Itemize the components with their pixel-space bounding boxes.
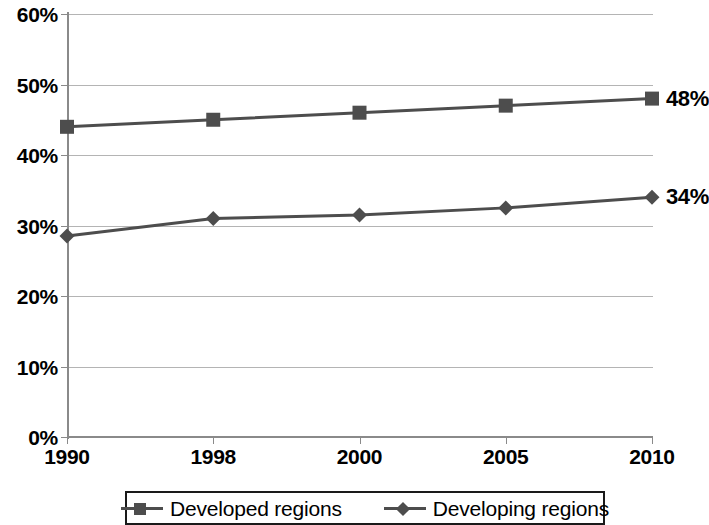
y-axis-line bbox=[67, 12, 69, 439]
square-data-point bbox=[206, 113, 220, 127]
x-tick-mark bbox=[67, 437, 68, 444]
legend-label-developing: Developing regions bbox=[433, 498, 609, 519]
series-line bbox=[67, 99, 652, 127]
y-axis-tick-label: 60% bbox=[17, 4, 58, 25]
x-axis-tick-label: 2000 bbox=[337, 446, 383, 467]
diamond-data-point bbox=[206, 211, 221, 226]
x-tick-mark bbox=[506, 437, 507, 444]
legend-label-developed: Developed regions bbox=[170, 498, 342, 519]
gridline bbox=[67, 85, 653, 86]
y-axis-tick-label: 20% bbox=[17, 286, 58, 307]
y-axis-tick-label: 10% bbox=[17, 357, 58, 378]
square-data-point bbox=[645, 92, 659, 106]
legend: Developed regions Developing regions bbox=[125, 491, 605, 525]
data-point-label: 48% bbox=[666, 88, 709, 110]
x-tick-mark bbox=[360, 437, 361, 444]
square-data-point bbox=[353, 106, 367, 120]
x-axis-tick-label: 2010 bbox=[629, 446, 675, 467]
legend-item-developing[interactable]: Developing regions bbox=[384, 498, 609, 519]
diamond-data-point bbox=[645, 190, 660, 205]
y-axis-tick-label: 30% bbox=[17, 216, 58, 237]
series-line bbox=[67, 197, 652, 236]
x-axis-tick-label: 1998 bbox=[190, 446, 236, 467]
gridline bbox=[67, 155, 653, 156]
gridline bbox=[67, 296, 653, 297]
x-axis-tick-label: 1990 bbox=[44, 446, 90, 467]
legend-item-developed[interactable]: Developed regions bbox=[121, 498, 342, 519]
x-tick-mark bbox=[213, 437, 214, 444]
x-tick-mark bbox=[652, 437, 653, 444]
y-axis-tick-label: 40% bbox=[17, 145, 58, 166]
gridline bbox=[67, 14, 653, 15]
square-marker-icon bbox=[121, 500, 163, 516]
gridline bbox=[67, 367, 653, 368]
diamond-marker-icon bbox=[384, 500, 426, 516]
diamond-data-point bbox=[352, 207, 367, 222]
diamond-data-point bbox=[498, 200, 513, 215]
x-axis-tick-label: 2005 bbox=[483, 446, 529, 467]
square-data-point bbox=[499, 99, 513, 113]
y-axis-tick-label: 50% bbox=[17, 75, 58, 96]
gridline bbox=[67, 226, 653, 227]
data-point-label: 34% bbox=[666, 186, 709, 208]
